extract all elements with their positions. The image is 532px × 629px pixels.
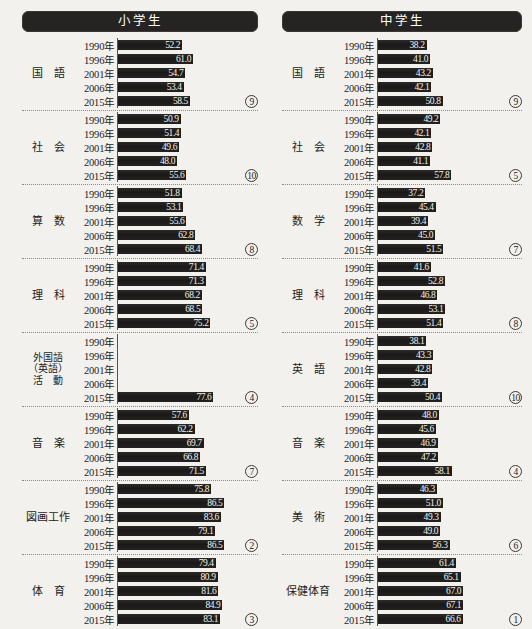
bar-value-label: 55.6 xyxy=(169,216,186,226)
value-bar: 50.4 xyxy=(378,392,442,402)
year-rows: 1990年38.11996年43.32001年42.82006年39.42015… xyxy=(334,334,522,404)
bar-track: 51.5 xyxy=(377,242,505,256)
subject-group: 保健体育1990年61.41996年65.12001年67.02006年67.1… xyxy=(282,555,522,628)
year-label: 2006年 xyxy=(74,524,117,539)
chart-row: 2006年67.1 xyxy=(334,598,522,612)
bar-value-label: 69.7 xyxy=(187,438,204,448)
bar-track: 62.8 xyxy=(117,228,241,242)
rank-badge: 10 xyxy=(245,169,258,182)
bar-value-label: 79.1 xyxy=(198,526,215,536)
chart-row: 1996年62.2 xyxy=(74,422,258,436)
bar-value-label: 51.8 xyxy=(165,188,182,198)
chart-row: 1996年71.3 xyxy=(74,274,258,288)
chart-row: 1996年53.1 xyxy=(74,200,258,214)
bar-track: 46.8 xyxy=(377,288,505,302)
chart-row: 2006年66.8 xyxy=(74,450,258,464)
bar-value-label: 83.6 xyxy=(204,512,221,522)
chart-row: 1990年71.4 xyxy=(74,260,258,274)
bar-track: 56.3 xyxy=(377,538,505,552)
year-label: 2006年 xyxy=(334,450,377,465)
bar-value-label: 80.9 xyxy=(200,572,217,582)
chart-row: 2001年 xyxy=(74,362,258,376)
year-label: 1996年 xyxy=(74,200,117,215)
year-label: 2006年 xyxy=(334,80,377,95)
chart-row: 1996年51.4 xyxy=(74,126,258,140)
chart-row: 2015年68.48 xyxy=(74,242,258,256)
chart-row: 2001年55.6 xyxy=(74,214,258,228)
rank-badge: 8 xyxy=(509,317,522,330)
rank-badge xyxy=(509,585,522,598)
bar-track xyxy=(117,362,241,376)
bar-value-label: 61.0 xyxy=(176,54,193,64)
subject-group: 数 学1990年37.21996年45.42001年39.42006年45.02… xyxy=(282,185,522,259)
rank-badge xyxy=(245,81,258,94)
bar-value-label: 47.2 xyxy=(421,452,438,462)
bar-value-label: 86.5 xyxy=(207,498,224,508)
bar-track: 84.9 xyxy=(117,598,241,612)
value-bar: 75.8 xyxy=(118,484,211,494)
year-label: 2015年 xyxy=(74,390,117,405)
year-label: 2015年 xyxy=(74,464,117,479)
rank-badge xyxy=(245,187,258,200)
value-bar: 42.8 xyxy=(378,142,432,152)
value-bar: 39.4 xyxy=(378,216,428,226)
chart-row: 1990年52.2 xyxy=(74,38,258,52)
bar-track: 66.6 xyxy=(377,612,505,626)
rank-badge xyxy=(509,377,522,390)
subject-label: 図画工作 xyxy=(22,511,74,524)
bar-track: 80.9 xyxy=(117,570,241,584)
bar-track: 65.1 xyxy=(377,570,505,584)
year-rows: 1990年57.61996年62.22001年69.72006年66.82015… xyxy=(74,408,258,478)
bar-value-label: 53.1 xyxy=(166,202,183,212)
value-bar: 56.3 xyxy=(378,540,450,550)
bar-track: 71.3 xyxy=(117,274,241,288)
rank-badge xyxy=(509,201,522,214)
year-label: 1990年 xyxy=(334,260,377,275)
year-rows: 1990年71.41996年71.32001年68.22006年68.52015… xyxy=(74,260,258,330)
chart-row: 1996年80.9 xyxy=(74,570,258,584)
subject-label: 英 語 xyxy=(282,363,334,376)
rank-badge xyxy=(245,335,258,348)
bar-track: 62.2 xyxy=(117,422,241,436)
chart-row: 2015年56.36 xyxy=(334,538,522,552)
bar-value-label: 50.4 xyxy=(425,392,442,402)
year-label: 1996年 xyxy=(74,496,117,511)
year-rows: 1990年48.01996年45.62001年46.92006年47.22015… xyxy=(334,408,522,478)
year-label: 1996年 xyxy=(334,200,377,215)
bar-value-label: 39.4 xyxy=(411,216,428,226)
year-label: 1990年 xyxy=(74,186,117,201)
subject-group: 外国語（英語）活 動1990年1996年2001年2006年2015年77.64 xyxy=(22,333,258,407)
bar-value-label: 57.8 xyxy=(434,170,451,180)
bar-track: 52.8 xyxy=(377,274,505,288)
year-label: 2001年 xyxy=(74,140,117,155)
bar-value-label: 68.4 xyxy=(185,244,202,254)
bar-track: 45.0 xyxy=(377,228,505,242)
subject-group: 音 楽1990年57.61996年62.22001年69.72006年66.82… xyxy=(22,407,258,481)
chart-row: 1996年52.8 xyxy=(334,274,522,288)
rank-badge xyxy=(509,497,522,510)
subject-label: 社 会 xyxy=(282,141,334,154)
value-bar: 53.1 xyxy=(118,202,183,212)
subject-label: 美 術 xyxy=(282,511,334,524)
chart-row: 2015年83.13 xyxy=(74,612,258,626)
bar-track: 42.8 xyxy=(377,140,505,154)
bar-value-label: 50.8 xyxy=(425,96,442,106)
subject-label: 音 楽 xyxy=(282,437,334,450)
bar-value-label: 46.8 xyxy=(420,290,437,300)
bar-track: 51.4 xyxy=(117,126,241,140)
value-bar: 75.2 xyxy=(118,318,210,328)
rank-badge xyxy=(245,229,258,242)
rank-badge xyxy=(509,187,522,200)
year-label: 1996年 xyxy=(74,422,117,437)
bar-track: 38.1 xyxy=(377,334,505,348)
bar-track: 81.6 xyxy=(117,584,241,598)
year-label: 2006年 xyxy=(74,376,117,391)
rank-badge: 5 xyxy=(245,317,258,330)
rank-badge xyxy=(245,303,258,316)
bar-track: 83.6 xyxy=(117,510,241,524)
bar-track: 52.2 xyxy=(117,38,241,52)
chart-row: 1990年38.2 xyxy=(334,38,522,52)
year-rows: 1990年41.61996年52.82001年46.82006年53.12015… xyxy=(334,260,522,330)
chart-row: 2015年51.48 xyxy=(334,316,522,330)
year-label: 2006年 xyxy=(334,302,377,317)
